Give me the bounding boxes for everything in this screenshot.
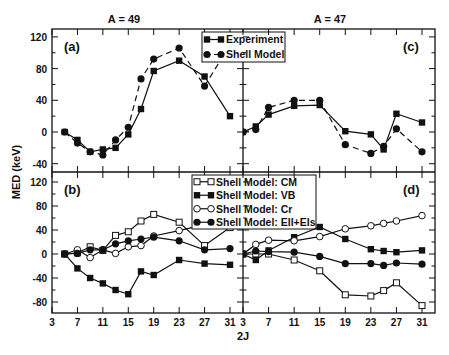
panel-label: (c) xyxy=(403,39,419,54)
y-tick-label: 120 xyxy=(30,32,47,43)
marker-circle-open xyxy=(87,254,94,261)
x-tick-label: 3 xyxy=(240,317,246,328)
x-tick-label: 31 xyxy=(416,317,428,328)
marker-square-filled xyxy=(151,68,157,74)
marker-circle-filled xyxy=(342,260,349,267)
y-axis-label: MED (keV) xyxy=(10,144,22,199)
marker-circle-filled xyxy=(137,235,144,242)
x-axis-label: 2J xyxy=(237,330,249,342)
marker-square-filled xyxy=(138,268,144,274)
marker-circle-filled xyxy=(367,260,374,267)
marker-circle-filled xyxy=(99,151,106,158)
marker-circle-filled xyxy=(207,219,214,226)
marker-circle-open xyxy=(393,218,400,225)
marker-circle-filled xyxy=(380,143,387,150)
y-tick-label: 80 xyxy=(36,64,48,75)
marker-square-open xyxy=(113,232,119,238)
marker-circle-filled xyxy=(176,237,183,244)
marker-square-filled xyxy=(393,249,399,255)
marker-square-open xyxy=(368,293,374,299)
marker-square-filled xyxy=(74,265,80,271)
marker-square-filled xyxy=(176,57,182,63)
marker-circle-open xyxy=(125,244,132,251)
x-tick-label: 7 xyxy=(75,317,81,328)
marker-square-filled xyxy=(151,272,157,278)
marker-circle-open xyxy=(194,205,201,212)
panel-label: (a) xyxy=(64,39,80,54)
legend-entry-label: Shell Model: Cr xyxy=(216,203,292,215)
panel-label: (d) xyxy=(403,182,420,197)
marker-square-filled xyxy=(112,145,118,151)
series-line xyxy=(65,225,205,258)
y-tick-label: -40 xyxy=(33,273,48,284)
med-figure: A = 49 A = 47 MED (keV) 2J -4004080120(a… xyxy=(0,0,449,355)
marker-circle-open xyxy=(380,220,387,227)
y-tick-label: 40 xyxy=(36,225,48,236)
y-tick-label: 80 xyxy=(36,201,48,212)
marker-square-filled xyxy=(393,111,399,117)
marker-square-filled xyxy=(201,260,207,266)
marker-square-filled xyxy=(112,287,118,293)
marker-circle-open xyxy=(316,233,323,240)
marker-circle-filled xyxy=(203,51,210,58)
marker-circle-filled xyxy=(176,44,183,51)
marker-circle-filled xyxy=(150,234,157,241)
marker-circle-open xyxy=(291,238,298,245)
marker-circle-filled xyxy=(291,97,298,104)
marker-circle-open xyxy=(368,223,375,230)
marker-square-open xyxy=(317,268,323,274)
marker-square-filled xyxy=(342,236,348,242)
marker-square-filled xyxy=(208,192,214,198)
marker-square-open xyxy=(151,211,157,217)
marker-circle-filled xyxy=(193,219,200,226)
marker-circle-open xyxy=(112,250,119,257)
series-shell-model-cr xyxy=(61,221,207,261)
marker-square-filled xyxy=(253,257,259,263)
marker-circle-filled xyxy=(61,250,68,257)
marker-circle-open xyxy=(342,226,349,233)
x-tick-label: 15 xyxy=(314,317,326,328)
marker-square-open xyxy=(138,218,144,224)
marker-circle-filled xyxy=(367,150,374,157)
marker-square-open xyxy=(176,219,182,225)
y-tick-label: 0 xyxy=(41,249,47,260)
x-tick-label: 15 xyxy=(123,317,135,328)
legend-entry-label: Shell Model xyxy=(226,48,284,60)
marker-square-filled xyxy=(317,224,323,230)
marker-circle-filled xyxy=(125,124,132,131)
marker-square-filled xyxy=(176,257,182,263)
x-tick-label: 27 xyxy=(391,317,403,328)
marker-square-open xyxy=(194,179,200,185)
marker-circle-filled xyxy=(393,259,400,266)
marker-circle-filled xyxy=(316,253,323,260)
figure-svg: A = 49 A = 47 MED (keV) 2J -4004080120(a… xyxy=(0,0,449,355)
marker-square-filled xyxy=(380,248,386,254)
marker-circle-filled xyxy=(112,240,119,247)
marker-circle-filled xyxy=(137,75,144,82)
marker-circle-filled xyxy=(393,125,400,132)
marker-square-filled xyxy=(227,262,233,268)
x-tick-label: 19 xyxy=(148,317,160,328)
x-tick-label: 23 xyxy=(365,317,377,328)
marker-square-open xyxy=(393,280,399,286)
legend-entry-label: Shell Model: Ell+Els xyxy=(216,216,316,228)
marker-circle-filled xyxy=(201,82,208,89)
marker-circle-filled xyxy=(74,250,81,257)
marker-circle-filled xyxy=(99,246,106,253)
panel-label: (b) xyxy=(64,182,81,197)
x-tick-label: 7 xyxy=(266,317,272,328)
x-tick-label: 23 xyxy=(174,317,186,328)
marker-circle-open xyxy=(138,242,145,249)
plot-layer: -4004080120(a)ExperimentShell Model(c)-8… xyxy=(30,29,435,328)
legend-entry-label: Shell Model: CM xyxy=(216,176,297,188)
y-tick-label: 120 xyxy=(30,177,47,188)
x-tick-label: 19 xyxy=(340,317,352,328)
marker-square-open xyxy=(419,303,425,309)
y-tick-label: 40 xyxy=(36,95,48,106)
marker-square-filled xyxy=(194,192,200,198)
marker-square-filled xyxy=(368,131,374,137)
marker-square-filled xyxy=(138,106,144,112)
marker-square-filled xyxy=(342,128,348,134)
legend-b: Shell Model: CMShell Model: VBShell Mode… xyxy=(192,175,316,229)
marker-circle-filled xyxy=(418,261,425,268)
